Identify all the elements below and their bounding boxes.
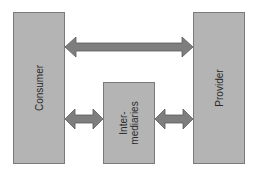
intermediaries-label-line-1: Inter- xyxy=(118,111,129,134)
provider-label: Provider xyxy=(214,69,225,106)
consumer-label: Consumer xyxy=(34,65,45,111)
intermediaries-label-line-2: mediaries xyxy=(129,101,140,144)
arrow-consumer-provider xyxy=(65,37,193,57)
provider-box: Provider xyxy=(193,12,245,164)
consumer-box: Consumer xyxy=(13,12,65,164)
arrow-intermediaries-provider xyxy=(155,109,193,129)
intermediaries-box: Inter- mediaries xyxy=(103,82,155,164)
intermediaries-label: Inter- mediaries xyxy=(118,101,140,144)
arrow-consumer-intermediaries xyxy=(65,109,103,129)
